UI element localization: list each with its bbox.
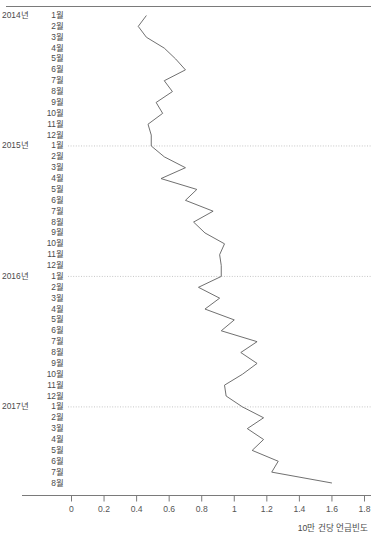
x-axis-ticks xyxy=(72,496,365,502)
x-axis-tick-label: 0.8 xyxy=(196,503,208,515)
x-axis-title: 10만 건당 언급빈도 xyxy=(298,521,368,533)
x-axis-tick-label: 1.6 xyxy=(326,503,338,515)
mention-frequency-line xyxy=(138,16,332,484)
mention-frequency-chart: 2014년1월2월3월4월5월6월7월8월9월10월11월12월2015년1월2… xyxy=(0,0,377,543)
x-axis-tick-label: 0 xyxy=(69,503,74,515)
x-axis-tick-label: 1.4 xyxy=(293,503,305,515)
x-axis-tick-label: 0.4 xyxy=(131,503,143,515)
x-axis-tick-label: 1.8 xyxy=(359,503,371,515)
x-axis-tick-label: 0.2 xyxy=(98,503,110,515)
x-axis-tick-label: 1.2 xyxy=(261,503,273,515)
x-axis-tick-label: 1 xyxy=(232,503,237,515)
x-axis-tick-labels: 00.20.40.60.811.21.41.61.8 xyxy=(0,503,377,517)
chart-plot-area xyxy=(0,0,377,543)
x-axis-tick-label: 0.6 xyxy=(163,503,175,515)
gridlines xyxy=(68,146,371,407)
